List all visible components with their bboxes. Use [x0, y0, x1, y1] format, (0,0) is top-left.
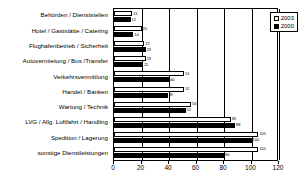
bar-slot: 85: [114, 117, 277, 122]
bar-group: 5140: [114, 69, 277, 84]
bar-2003: [114, 41, 144, 46]
x-tick-label: 0: [111, 165, 115, 172]
legend-label: 2003: [281, 15, 294, 21]
bar-value-label: 13: [133, 12, 137, 16]
bar-2003: [114, 26, 142, 31]
bar-2000: [114, 77, 169, 82]
bar-2003: [114, 71, 184, 76]
bar-2000: [114, 32, 133, 37]
bar-slot: 105: [114, 132, 277, 137]
category-label: Autovermietung / Bus /Transfer: [0, 54, 111, 69]
category-label: Hotel / Gaststätte / Catering: [0, 23, 111, 38]
x-tick-label: 20: [137, 165, 144, 172]
bar-2003: [114, 87, 184, 92]
bar-value-label: 88: [236, 123, 240, 127]
category-label: LVG / Allg. Luftfahrt / Handling: [0, 115, 111, 130]
category-axis-labels: Behörden / DienststellenHotel / Gaststät…: [0, 8, 111, 161]
x-tick-label: 40: [164, 165, 171, 172]
bar-value-label: 39: [169, 93, 173, 97]
bar-slot: 23: [114, 56, 277, 61]
bar-slot: 23: [114, 47, 277, 52]
bar-value-label: 105: [259, 147, 266, 151]
bar-2003: [114, 56, 146, 61]
plot-area: 1312201422232321514051395652858810510010…: [113, 8, 278, 161]
bar-chart: Behörden / DienststellenHotel / Gaststät…: [0, 0, 303, 192]
bar-2000: [114, 138, 252, 143]
white-square-icon: [274, 16, 279, 21]
bar-slot: 40: [114, 77, 277, 82]
bar-value-label: 100: [253, 138, 260, 142]
legend-item: 2003: [274, 15, 294, 21]
bar-value-label: 51: [185, 72, 189, 76]
bar-value-label: 14: [134, 33, 138, 37]
x-tick-label: 60: [192, 165, 199, 172]
category-label: Spedition / Lagerung: [0, 130, 111, 145]
bar-value-label: 105: [259, 132, 266, 136]
category-label: Handel / Banken: [0, 84, 111, 99]
bar-2000: [114, 62, 143, 67]
bar-2000: [114, 17, 131, 22]
bar-2000: [114, 123, 235, 128]
bar-2003: [114, 132, 258, 137]
bar-slot: 14: [114, 32, 277, 37]
x-tick-label: 120: [273, 165, 284, 172]
bar-slot: 39: [114, 93, 277, 98]
bar-rows: 1312201422232321514051395652858810510010…: [114, 9, 277, 160]
bar-value-label: 23: [147, 48, 151, 52]
bar-2003: [114, 11, 132, 16]
bar-group: 105100: [114, 130, 277, 145]
bar-slot: 13: [114, 11, 277, 16]
bar-slot: 80: [114, 153, 277, 158]
category-label: sonstige Dienstleistungen: [0, 146, 111, 161]
category-label: Verkehrsvermittlung: [0, 69, 111, 84]
bar-2003: [114, 147, 258, 152]
x-axis: 020406080100120: [113, 161, 278, 183]
bar-slot: 22: [114, 41, 277, 46]
bar-value-label: 22: [145, 42, 149, 46]
category-label: Behörden / Dienststellen: [0, 8, 111, 23]
bar-2003: [114, 102, 191, 107]
bar-slot: 12: [114, 17, 277, 22]
bar-slot: 100: [114, 138, 277, 143]
legend-label: 2000: [281, 23, 294, 29]
bar-slot: 20: [114, 26, 277, 31]
bar-group: 2321: [114, 54, 277, 69]
bar-slot: 56: [114, 102, 277, 107]
bar-value-label: 80: [225, 153, 229, 157]
bar-group: 10580: [114, 145, 277, 160]
bar-slot: 105: [114, 147, 277, 152]
bar-slot: 88: [114, 123, 277, 128]
bar-slot: 52: [114, 108, 277, 113]
bar-group: 8588: [114, 115, 277, 130]
bar-2000: [114, 153, 224, 158]
bar-group: 2223: [114, 39, 277, 54]
bar-value-label: 56: [192, 102, 196, 106]
bar-2003: [114, 117, 231, 122]
bar-2000: [114, 47, 146, 52]
black-square-icon: [274, 24, 279, 29]
bar-value-label: 52: [187, 108, 191, 112]
bar-value-label: 40: [170, 78, 174, 82]
category-label: Flughafenbetrieb / Sicherheit: [0, 39, 111, 54]
bar-slot: 51: [114, 71, 277, 76]
bar-value-label: 51: [185, 87, 189, 91]
bar-slot: 51: [114, 87, 277, 92]
bar-value-label: 21: [144, 63, 148, 67]
bar-group: 2014: [114, 24, 277, 39]
bar-group: 1312: [114, 9, 277, 24]
bar-value-label: 85: [232, 117, 236, 121]
bar-value-label: 20: [143, 27, 147, 31]
chart-legend: 20032000: [270, 12, 298, 32]
bar-slot: 21: [114, 62, 277, 67]
bar-group: 5139: [114, 84, 277, 99]
bar-value-label: 12: [132, 18, 136, 22]
bar-2000: [114, 93, 168, 98]
bar-2000: [114, 108, 186, 113]
bar-value-label: 23: [147, 57, 151, 61]
category-label: Wartung / Technik: [0, 100, 111, 115]
x-tick-label: 80: [219, 165, 226, 172]
bar-group: 5652: [114, 100, 277, 115]
x-tick-label: 100: [245, 165, 256, 172]
legend-item: 2000: [274, 23, 294, 29]
